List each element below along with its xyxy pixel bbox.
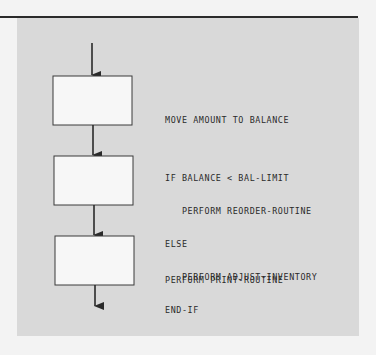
code-line: IF BALANCE < BAL-LIMIT [165,173,317,184]
figure-canvas: MOVE AMOUNT TO BALANCE IF BALANCE < BAL-… [0,0,376,355]
code-line: ELSE [165,239,317,250]
process-box-3 [55,236,134,285]
code-line: MOVE AMOUNT TO BALANCE [165,115,289,126]
step-2-code: IF BALANCE < BAL-LIMIT PERFORM REORDER-R… [165,151,317,338]
process-box-1 [53,76,132,125]
process-box-2 [54,156,133,205]
code-line: PERFORM PRINT-ROUTINE [165,275,284,286]
step-1-code: MOVE AMOUNT TO BALANCE [165,93,289,148]
step-3-code: PERFORM PRINT-ROUTINE [165,253,284,308]
code-line: PERFORM REORDER-ROUTINE [165,206,317,217]
